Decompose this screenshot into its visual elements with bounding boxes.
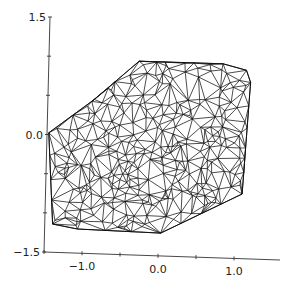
x-axis-line	[44, 252, 280, 260]
x-ticks: −1.00.01.0	[44, 250, 243, 278]
y-ticks: 1.50.0−1.5	[13, 11, 52, 259]
x-tick-label: 0.0	[149, 263, 167, 276]
y-tick-label: 1.5	[29, 11, 47, 24]
triangulation-mesh	[49, 61, 251, 233]
mesh-edges	[49, 61, 251, 233]
y-tick-label: 0.0	[26, 129, 44, 142]
x-tick-label: −1.0	[69, 260, 96, 273]
mesh-chart: 1.50.0−1.5 −1.00.01.0	[0, 0, 290, 291]
y-tick-label: −1.5	[13, 246, 40, 259]
x-tick-label: 1.0	[225, 265, 243, 278]
